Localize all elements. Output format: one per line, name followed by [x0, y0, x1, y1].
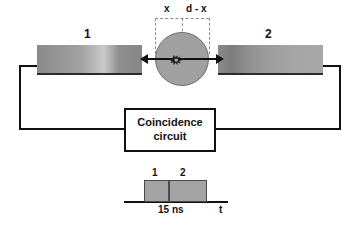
pulse-1-label: 1 — [152, 168, 158, 178]
pulse-1-block — [144, 180, 169, 202]
detector-2-block — [218, 45, 323, 75]
wire-detector1-lead — [19, 65, 39, 67]
bracket-right-dashed-line — [209, 18, 210, 54]
arrow-right-icon — [216, 54, 224, 64]
detector-1-block — [37, 45, 142, 75]
coincidence-circuit-line-2: circuit — [153, 130, 186, 144]
burst-star-icon — [170, 55, 183, 65]
coincidence-circuit-box: Coincidence circuit — [124, 108, 216, 152]
time-axis-label: t — [219, 205, 222, 215]
distance-label-x: x — [164, 4, 170, 14]
wire-left-vertical — [19, 65, 21, 130]
wire-left-to-circuit — [19, 128, 126, 130]
distance-label-d-minus-x: d - x — [186, 4, 207, 14]
arrow-left-icon — [140, 54, 148, 64]
coincidence-circuit-line-1: Coincidence — [137, 116, 202, 130]
diagram-canvas: x d - x 1 2 Coincidence circuit 1 2 15 n… — [0, 0, 351, 225]
detector-1-label: 1 — [84, 28, 91, 40]
wire-right-vertical — [339, 65, 341, 130]
emission-axis-right — [182, 58, 218, 60]
wire-detector2-lead — [321, 65, 341, 67]
pulse-2-label: 2 — [180, 168, 186, 178]
wire-right-to-circuit — [214, 128, 341, 130]
detector-2-label: 2 — [265, 28, 272, 40]
pulse-2-block — [169, 180, 207, 202]
pulse-duration-label: 15 ns — [158, 205, 184, 215]
